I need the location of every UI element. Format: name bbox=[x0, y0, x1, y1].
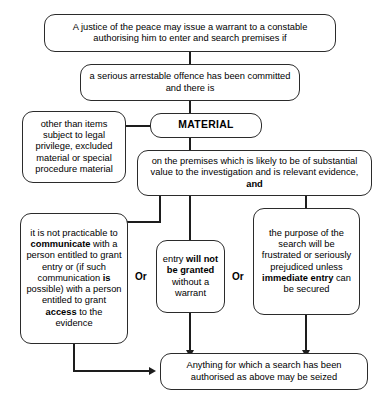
edge-exclusion-to-material bbox=[126, 125, 150, 127]
bl-p1: it is not practicable to bbox=[30, 228, 117, 238]
bl-b1: communicate bbox=[31, 239, 91, 249]
node-justice-of-the-peace-label: A justice of the peace may issue a warra… bbox=[50, 22, 330, 45]
node-on-the-premises: on the premises which is likely to be of… bbox=[137, 150, 372, 196]
flowchart-canvas: A justice of the peace may issue a warra… bbox=[0, 0, 380, 407]
node-serious-arrestable-offence-label: a serious arrestable offence has been co… bbox=[86, 71, 294, 94]
br-p1: the purpose of the search will be frustr… bbox=[262, 228, 351, 272]
bl-b2: is bbox=[103, 273, 111, 283]
bm-p1: entry bbox=[163, 254, 186, 264]
edge-premises-to-left-v1 bbox=[159, 196, 161, 223]
br-b1: immediate entry bbox=[262, 273, 333, 283]
edge-premises-to-mid bbox=[189, 196, 191, 240]
or-label-right: Or bbox=[232, 271, 244, 282]
edge-left-to-result-v bbox=[73, 344, 75, 372]
node-purpose-frustrated-label: the purpose of the search will be frustr… bbox=[259, 228, 354, 296]
node-entry-will-not-be-granted: entry will not be granted without a warr… bbox=[156, 240, 225, 313]
bm-p2: without a warrant bbox=[172, 277, 209, 298]
node-on-the-premises-label: on the premises which is likely to be of… bbox=[143, 156, 366, 190]
edge-premises-to-left-h bbox=[127, 221, 161, 223]
edge-left-to-result-h bbox=[73, 370, 151, 372]
node-not-practicable-to-communicate: it is not practicable to communicate wit… bbox=[20, 213, 128, 344]
edge-right-to-result bbox=[305, 315, 307, 353]
edge-mid-to-result bbox=[189, 313, 191, 353]
node-anything-may-be-seized-label: Anything for which a search has been aut… bbox=[166, 360, 362, 383]
node-purpose-frustrated: the purpose of the search will be frustr… bbox=[253, 208, 360, 315]
node-on-the-premises-text: on the premises which is likely to be of… bbox=[151, 156, 359, 177]
or-label-left: Or bbox=[135, 271, 147, 282]
node-excluded-material: other than items subject to legal privil… bbox=[22, 111, 126, 183]
node-serious-arrestable-offence: a serious arrestable offence has been co… bbox=[80, 64, 300, 101]
bl-b3: access bbox=[46, 307, 77, 317]
edge-n2-to-material bbox=[189, 101, 191, 113]
node-material: MATERIAL bbox=[150, 113, 262, 138]
arrowhead-left-to-result bbox=[149, 367, 156, 375]
node-anything-may-be-seized: Anything for which a search has been aut… bbox=[160, 353, 368, 390]
edge-material-to-premises bbox=[189, 138, 191, 150]
node-not-practicable-label: it is not practicable to communicate wit… bbox=[26, 228, 122, 330]
node-material-label: MATERIAL bbox=[156, 119, 256, 132]
bl-p3: possible) with a person entitled to gran… bbox=[26, 284, 121, 305]
edge-premises-to-right bbox=[305, 196, 307, 208]
node-entry-will-not-be-granted-label: entry will not be granted without a warr… bbox=[162, 254, 219, 299]
node-excluded-material-label: other than items subject to legal privil… bbox=[28, 119, 120, 176]
node-on-the-premises-bold: and bbox=[246, 179, 263, 189]
node-justice-of-the-peace: A justice of the peace may issue a warra… bbox=[44, 14, 336, 52]
edge-n1-to-n2 bbox=[189, 52, 191, 64]
